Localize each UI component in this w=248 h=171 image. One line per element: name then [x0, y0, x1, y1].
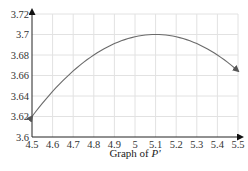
chart-caption: Graph of P' — [109, 147, 161, 159]
y-tick-label: 3.72 — [11, 9, 29, 20]
x-tick-label: 5.2 — [170, 139, 183, 150]
y-tick-label: 3.68 — [11, 50, 29, 61]
grid — [32, 14, 238, 137]
x-tick-label: 4.6 — [46, 139, 59, 150]
chart: 3.63.623.643.663.683.73.72 4.54.64.74.84… — [0, 0, 248, 171]
y-tick-labels: 3.63.623.643.663.683.73.72 — [11, 9, 30, 143]
x-tick-label: 4.5 — [25, 139, 38, 150]
x-tick-label: 4.8 — [87, 139, 100, 150]
x-tick-label: 4.7 — [67, 139, 80, 150]
axes — [32, 10, 242, 137]
y-tick-label: 3.7 — [16, 29, 29, 40]
y-tick-label: 3.62 — [11, 111, 29, 122]
x-tick-label: 5.3 — [190, 139, 203, 150]
y-tick-label: 3.66 — [11, 70, 29, 81]
x-tick-label: 5.5 — [231, 139, 244, 150]
x-tick-label: 5.4 — [211, 139, 225, 150]
y-tick-label: 3.64 — [11, 91, 30, 102]
